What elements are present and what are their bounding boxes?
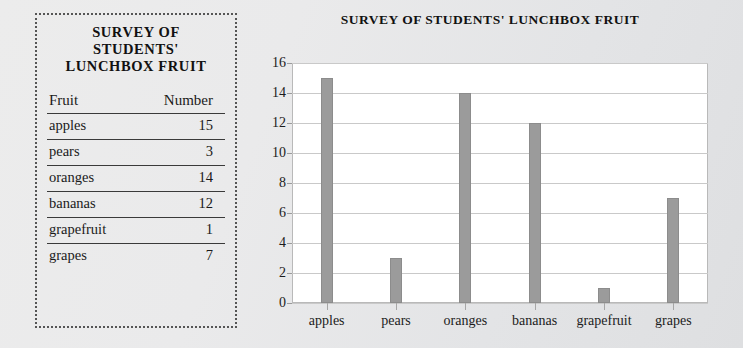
y-tick-mark: [287, 213, 292, 214]
cell-fruit: grapes: [47, 244, 135, 270]
bar: [321, 78, 333, 303]
x-tick-label: grapes: [655, 313, 692, 329]
table-header-row: Fruit Number: [47, 89, 225, 114]
plot-wrap: 0246810121416 applespearsorangesbananasg…: [292, 63, 708, 303]
cell-number: 3: [135, 140, 225, 166]
y-tick-label: 4: [279, 235, 286, 251]
gridline: [292, 273, 708, 274]
cell-fruit: apples: [47, 114, 135, 140]
table-row: grapes 7: [47, 244, 225, 270]
y-tick-mark: [287, 183, 292, 184]
x-tick-label: grapefruit: [576, 313, 631, 329]
gridline: [292, 213, 708, 214]
table-row: oranges 14: [47, 166, 225, 192]
x-tick-mark: [396, 303, 397, 310]
table-title: SURVEY OF STUDENTS' LUNCHBOX FRUIT: [47, 24, 225, 75]
table-row: grapefruit 1: [47, 218, 225, 244]
cell-number: 12: [135, 192, 225, 218]
y-tick-mark: [287, 123, 292, 124]
x-tick-mark: [535, 303, 536, 310]
y-tick-mark: [287, 273, 292, 274]
table-title-line-3: LUNCHBOX FRUIT: [47, 58, 225, 75]
gridline: [292, 183, 708, 184]
y-tick-mark: [287, 153, 292, 154]
gridline: [292, 153, 708, 154]
x-tick-mark: [465, 303, 466, 310]
y-tick-mark: [287, 63, 292, 64]
table-body: apples 15 pears 3 oranges 14 bananas 12 …: [47, 114, 225, 270]
column-header-number: Number: [135, 89, 225, 114]
x-tick-mark: [327, 303, 328, 310]
y-tick-mark: [287, 303, 292, 304]
y-tick-label: 16: [272, 55, 286, 71]
gridline: [292, 93, 708, 94]
cell-number: 7: [135, 244, 225, 270]
cell-fruit: bananas: [47, 192, 135, 218]
cell-number: 14: [135, 166, 225, 192]
gridline: [292, 303, 708, 304]
x-tick-mark: [604, 303, 605, 310]
y-tick-label: 8: [279, 175, 286, 191]
cell-fruit: oranges: [47, 166, 135, 192]
y-tick-label: 14: [272, 85, 286, 101]
y-tick-label: 0: [279, 295, 286, 311]
bar: [390, 258, 402, 303]
bar: [667, 198, 679, 303]
column-header-fruit: Fruit: [47, 89, 135, 114]
bar: [459, 93, 471, 303]
cell-number: 15: [135, 114, 225, 140]
cell-fruit: pears: [47, 140, 135, 166]
y-tick-label: 6: [279, 205, 286, 221]
table-row: apples 15: [47, 114, 225, 140]
gridline: [292, 123, 708, 124]
y-tick-label: 2: [279, 265, 286, 281]
table-title-line-2: STUDENTS': [47, 41, 225, 58]
x-tick-label: bananas: [512, 313, 557, 329]
cell-number: 1: [135, 218, 225, 244]
y-tick-mark: [287, 93, 292, 94]
y-tick-label: 12: [272, 115, 286, 131]
x-tick-label: apples: [309, 313, 345, 329]
gridline: [292, 243, 708, 244]
survey-table-panel: SURVEY OF STUDENTS' LUNCHBOX FRUIT Fruit…: [35, 13, 237, 328]
y-tick-mark: [287, 243, 292, 244]
table-row: pears 3: [47, 140, 225, 166]
bar: [529, 123, 541, 303]
screenshot-root: SURVEY OF STUDENTS' LUNCHBOX FRUIT Fruit…: [0, 0, 743, 348]
table-title-line-1: SURVEY OF: [47, 24, 225, 41]
x-tick-label: pears: [381, 313, 411, 329]
y-tick-label: 10: [272, 145, 286, 161]
table-head: Fruit Number: [47, 89, 225, 114]
x-tick-mark: [673, 303, 674, 310]
bar-chart-panel: SURVEY OF STUDENTS' LUNCHBOX FRUIT 02468…: [255, 6, 725, 342]
gridline: [292, 63, 708, 64]
chart-title: SURVEY OF STUDENTS' LUNCHBOX FRUIT: [255, 12, 725, 28]
table-row: bananas 12: [47, 192, 225, 218]
x-tick-label: oranges: [444, 313, 488, 329]
cell-fruit: grapefruit: [47, 218, 135, 244]
fruit-survey-table: Fruit Number apples 15 pears 3 oranges 1…: [47, 89, 225, 269]
bar: [598, 288, 610, 303]
